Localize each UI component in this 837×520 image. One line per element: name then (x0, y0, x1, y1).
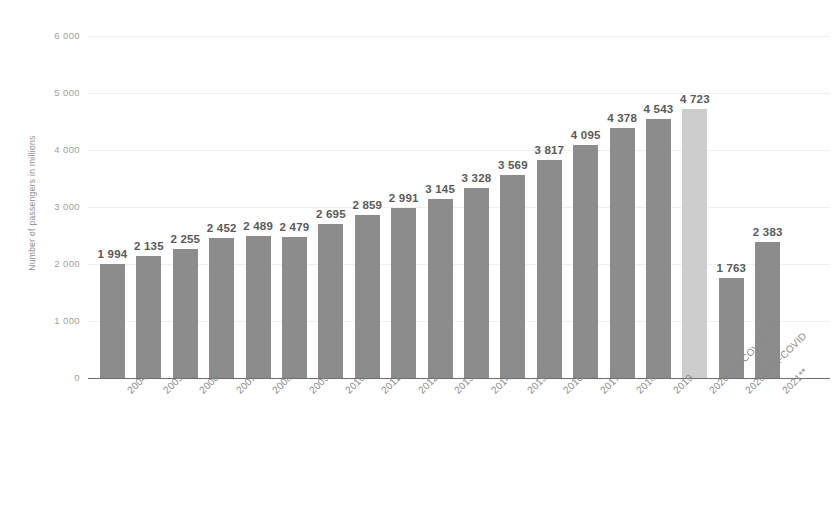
x-axis-tick-label: 2020 post-COVID (743, 388, 751, 396)
x-axis-tick-labels: 2004200520062007200820092010201120122013… (0, 0, 837, 520)
x-axis-tick-label: 2012 (416, 388, 424, 396)
x-axis-tick-label: 2007 (234, 388, 242, 396)
x-axis-tick-label: 2021** (780, 388, 788, 396)
x-axis-tick-label: 2006 (197, 388, 205, 396)
x-axis-tick-label: 2011 (379, 388, 387, 396)
x-axis-tick-label: 2004 (125, 388, 133, 396)
x-axis-tick-label: 2013 (452, 388, 460, 396)
x-axis-tick-label: 2014 (489, 388, 497, 396)
x-axis-tick-label: 2019 (671, 388, 679, 396)
x-axis-tick-label: 2016 (561, 388, 569, 396)
x-axis-tick-label: 2005 (161, 388, 169, 396)
x-axis-tick-label: 2020 pre-COVID*, ** (707, 388, 715, 396)
bar-chart: Number of passengers in millions 6 0005 … (0, 0, 837, 520)
x-axis-tick-label: 2009 (307, 388, 315, 396)
x-axis-tick-label: 2018 (634, 388, 642, 396)
x-axis-tick-label: 2017 (598, 388, 606, 396)
x-axis-tick-label: 2015 (525, 388, 533, 396)
x-axis-tick-label: 2010 (343, 388, 351, 396)
x-axis-tick-label: 2008 (270, 388, 278, 396)
